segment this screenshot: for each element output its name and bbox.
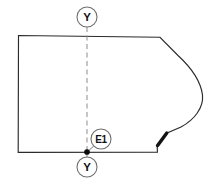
section-marker-top-label: Y	[83, 11, 91, 23]
detail-callout-e1-label: E1	[95, 134, 107, 145]
technical-drawing-svg: Cross-section outline with section plane…	[0, 0, 214, 184]
section-marker-bottom-label: Y	[83, 161, 91, 173]
section-marker-bottom[interactable]: Y	[77, 157, 97, 177]
technical-drawing-canvas: Cross-section outline with section plane…	[0, 0, 214, 184]
section-marker-top[interactable]: Y	[77, 7, 97, 27]
center-line-intersection-node	[84, 149, 89, 154]
detail-callout-e1[interactable]: E1	[91, 129, 111, 149]
